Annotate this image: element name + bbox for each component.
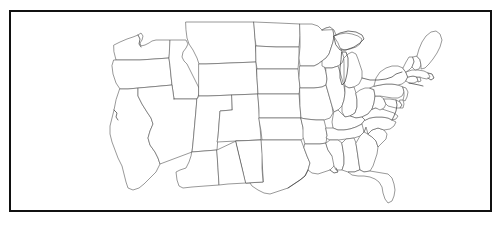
clipped-title-text [100, 0, 400, 2]
map-figure [0, 0, 502, 230]
map-frame-border [9, 10, 492, 212]
